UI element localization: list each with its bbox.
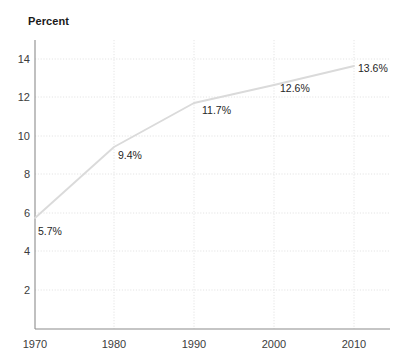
chart-plot-area (0, 0, 406, 361)
data-label-1970: 5.7% (38, 225, 62, 237)
y-tick-label-14: 14 (6, 53, 30, 65)
x-tick-label-1980: 1980 (92, 338, 136, 350)
y-tick-label-10: 10 (6, 130, 30, 142)
y-tick-label-8: 8 (6, 168, 30, 180)
horizontal-gridlines (35, 59, 390, 290)
y-tick-label-4: 4 (6, 245, 30, 257)
y-tick-label-2: 2 (6, 284, 30, 296)
x-tick-label-1970: 1970 (13, 338, 57, 350)
x-tick-label-2000: 2000 (252, 338, 296, 350)
data-label-1980: 9.4% (118, 149, 142, 161)
vertical-gridlines (114, 40, 354, 329)
data-label-2000: 12.6% (280, 82, 310, 94)
data-label-1990: 11.7% (202, 104, 231, 116)
chart-container: Percent 14 12 10 8 6 4 2 1970 19 (0, 0, 406, 361)
data-label-2010: 13.6% (358, 62, 388, 74)
y-tick-label-12: 12 (6, 91, 30, 103)
y-tick-label-6: 6 (6, 207, 30, 219)
x-tick-label-2010: 2010 (332, 338, 376, 350)
x-tick-label-1990: 1990 (172, 338, 216, 350)
